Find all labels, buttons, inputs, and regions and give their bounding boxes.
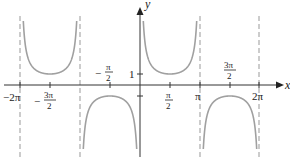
svg-text:2: 2 xyxy=(106,73,111,83)
tick-label-3pi-2: 3π 2 xyxy=(224,60,236,81)
csc-graph: x y −2π − 3π 2 − π 2 π 2 π 3π 2 2π 1 xyxy=(0,0,290,157)
svg-text:π: π xyxy=(166,90,171,100)
y-axis-label: y xyxy=(144,0,151,11)
svg-text:3π: 3π xyxy=(44,90,54,100)
tick-label-neg-pi-2: − π 2 xyxy=(95,62,113,83)
y-tick-label-1: 1 xyxy=(129,68,135,80)
svg-text:3π: 3π xyxy=(224,60,234,70)
svg-text:2: 2 xyxy=(47,101,52,111)
tick-label-pi: π xyxy=(195,90,201,102)
csc-branch xyxy=(23,21,76,74)
svg-text:2: 2 xyxy=(227,71,232,81)
svg-text:2: 2 xyxy=(166,101,171,111)
x-axis-label: x xyxy=(284,78,290,92)
svg-text:−: − xyxy=(34,95,40,107)
csc-branch xyxy=(143,21,196,74)
tick-label-pi-2: π 2 xyxy=(165,90,173,111)
x-axis-arrow-icon xyxy=(276,82,284,89)
tick-label-2pi: 2π xyxy=(252,90,264,102)
csc-branch xyxy=(83,96,136,149)
tick-label-neg-3pi-2: − 3π 2 xyxy=(34,90,56,111)
svg-text:π: π xyxy=(106,62,111,72)
svg-text:−: − xyxy=(95,67,101,79)
axes xyxy=(4,10,278,157)
y-axis-arrow-icon xyxy=(137,7,144,15)
csc-branch xyxy=(203,96,256,149)
tick-label-neg-2pi: −2π xyxy=(3,91,21,103)
